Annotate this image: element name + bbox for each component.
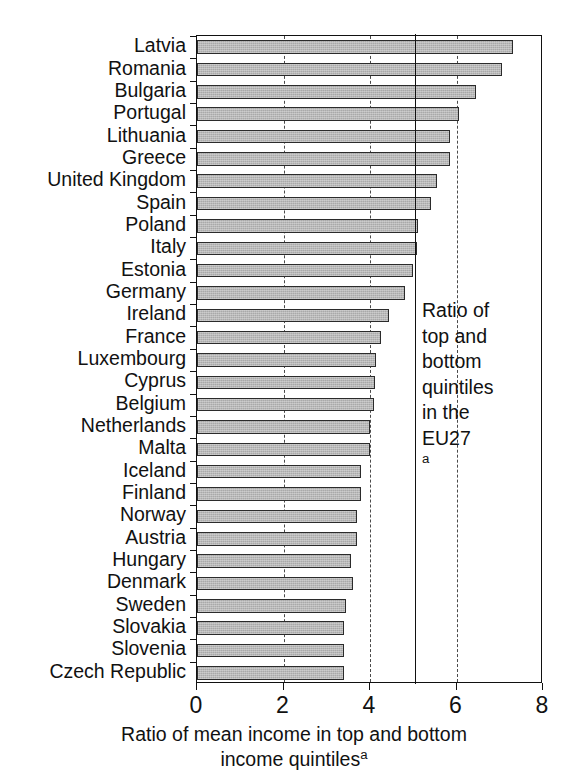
- bar: [197, 85, 476, 99]
- y-tick: [190, 326, 197, 327]
- x-tick-4: [369, 683, 370, 690]
- bar: [197, 487, 361, 501]
- x-axis-title-line-2-text: income quintiles: [220, 748, 360, 770]
- y-tick: [190, 170, 197, 171]
- y-tick: [190, 215, 197, 216]
- y-axis-label-romania: Romania: [108, 59, 186, 78]
- y-axis-label-belgium: Belgium: [116, 394, 186, 413]
- y-tick: [190, 192, 197, 193]
- y-axis-label-poland: Poland: [125, 215, 186, 234]
- x-axis-tick-labels: 02468: [0, 692, 588, 718]
- y-axis-label-france: France: [125, 327, 186, 346]
- annotation-footnote-marker: a: [422, 451, 429, 466]
- y-axis-label-slovenia: Slovenia: [111, 639, 186, 658]
- y-tick: [190, 394, 197, 395]
- x-tick-8: [542, 683, 543, 690]
- y-axis-label-greece: Greece: [122, 148, 186, 167]
- y-axis-label-germany: Germany: [106, 282, 186, 301]
- y-axis-label-slovakia: Slovakia: [112, 617, 186, 636]
- y-axis-label-sweden: Sweden: [116, 595, 186, 614]
- bar: [197, 666, 344, 680]
- x-tick-label-6: 6: [449, 692, 462, 718]
- bar: [197, 63, 502, 77]
- x-tick-label-0: 0: [190, 692, 203, 718]
- x-tick-label-8: 8: [536, 692, 549, 718]
- y-tick: [190, 595, 197, 596]
- x-tick-label-4: 4: [363, 692, 376, 718]
- y-axis-label-estonia: Estonia: [121, 260, 186, 279]
- y-tick: [190, 483, 197, 484]
- y-tick: [190, 639, 197, 640]
- x-axis-title-line-2: income quintilesa: [0, 747, 588, 772]
- bar: [197, 443, 370, 457]
- bar: [197, 376, 375, 390]
- annotation-line-6: EU27a: [422, 426, 534, 477]
- annotation-line-5: in the: [422, 400, 534, 426]
- reference-line-eu27: [415, 34, 416, 683]
- y-axis-label-bulgaria: Bulgaria: [114, 81, 186, 100]
- y-axis-label-lithuania: Lithuania: [107, 126, 186, 145]
- bar: [197, 420, 370, 434]
- y-tick: [190, 282, 197, 283]
- bar: [197, 152, 450, 166]
- y-axis-label-latvia: Latvia: [134, 36, 186, 55]
- annotation-eu27-text: EU27: [422, 426, 534, 452]
- y-tick: [190, 304, 197, 305]
- eu27-annotation: Ratio of top and bottom quintiles in the…: [422, 298, 534, 477]
- bar: [197, 219, 418, 233]
- annotation-line-2: top and: [422, 324, 534, 350]
- annotation-line-3: bottom: [422, 349, 534, 375]
- bar: [197, 532, 357, 546]
- x-tick-0: [196, 683, 197, 690]
- y-tick: [190, 662, 197, 663]
- bar: [197, 130, 450, 144]
- x-axis-footnote-marker: a: [360, 747, 367, 762]
- y-tick: [190, 237, 197, 238]
- y-axis-label-czech-republic: Czech Republic: [49, 662, 186, 681]
- y-axis-label-united-kingdom: United Kingdom: [47, 170, 186, 189]
- bar: [197, 398, 374, 412]
- y-axis-label-denmark: Denmark: [107, 572, 186, 591]
- y-axis-label-finland: Finland: [122, 483, 186, 502]
- bar: [197, 286, 405, 300]
- y-tick: [190, 36, 197, 37]
- bar: [197, 644, 344, 658]
- y-tick: [190, 371, 197, 372]
- bar: [197, 577, 353, 591]
- y-axis-label-portugal: Portugal: [113, 103, 186, 122]
- y-tick: [190, 349, 197, 350]
- y-tick: [190, 505, 197, 506]
- bar: [197, 309, 389, 323]
- y-axis-label-luxembourg: Luxembourg: [78, 349, 186, 368]
- y-axis-label-ireland: Ireland: [126, 304, 186, 323]
- bar: [197, 353, 376, 367]
- y-axis-category-labels: LatviaRomaniaBulgariaPortugalLithuaniaGr…: [0, 35, 190, 683]
- bar: [197, 599, 346, 613]
- x-tick-6: [456, 683, 457, 690]
- bar: [197, 554, 351, 568]
- x-tick-2: [283, 683, 284, 690]
- y-tick: [190, 103, 197, 104]
- bar: [197, 621, 344, 635]
- bar: [197, 465, 361, 479]
- y-tick: [190, 461, 197, 462]
- bar: [197, 242, 417, 256]
- bar: [197, 40, 513, 54]
- y-axis-label-malta: Malta: [138, 438, 186, 457]
- bar: [197, 197, 431, 211]
- y-tick: [190, 58, 197, 59]
- y-tick: [190, 528, 197, 529]
- annotation-line-1: Ratio of: [422, 298, 534, 324]
- y-axis-label-hungary: Hungary: [112, 550, 186, 569]
- y-tick: [190, 148, 197, 149]
- bar: [197, 510, 357, 524]
- bar: [197, 331, 381, 345]
- y-axis-label-austria: Austria: [125, 528, 186, 547]
- chart-figure: LatviaRomaniaBulgariaPortugalLithuaniaGr…: [0, 0, 588, 782]
- y-axis-label-norway: Norway: [120, 505, 186, 524]
- y-tick: [190, 416, 197, 417]
- y-tick: [190, 125, 197, 126]
- y-tick: [190, 572, 197, 573]
- x-tick-label-2: 2: [276, 692, 289, 718]
- y-tick: [190, 438, 197, 439]
